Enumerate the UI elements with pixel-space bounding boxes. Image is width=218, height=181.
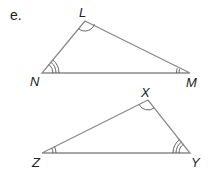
- vertex-label-y: Y: [191, 155, 201, 170]
- vertex-label-m: M: [186, 75, 197, 90]
- triangle-xyz: X Z Y: [31, 85, 201, 170]
- part-label: e.: [10, 7, 22, 23]
- angle-y-mark: [179, 144, 183, 153]
- vertex-label-l: L: [79, 5, 86, 20]
- angle-z-mark: [52, 148, 53, 153]
- vertex-label-x: X: [140, 85, 151, 100]
- vertex-label-z: Z: [31, 155, 41, 170]
- vertex-label-n: N: [30, 74, 40, 89]
- angle-n-mark: [49, 65, 53, 74]
- similar-triangles-diagram: e. L N M X Z Y: [0, 0, 218, 181]
- triangle-lmn: L N M: [30, 5, 197, 90]
